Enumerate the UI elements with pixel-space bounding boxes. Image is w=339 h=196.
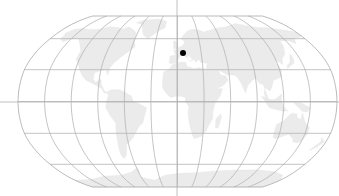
landmass-greenland: [137, 19, 167, 38]
landmass-madagascar: [215, 114, 221, 128]
landmass-new-guinea: [294, 103, 311, 113]
location-marker[interactable]: [180, 50, 186, 56]
landmass-south-america: [106, 90, 147, 159]
landmass-japan: [287, 54, 294, 69]
world-map[interactable]: [0, 0, 339, 196]
continents: [61, 19, 324, 187]
landmass-new-zealand: [309, 138, 324, 151]
landmass-antarctica: [75, 168, 283, 187]
graticule-grid: [18, 16, 337, 187]
landmass-australia: [273, 113, 309, 143]
